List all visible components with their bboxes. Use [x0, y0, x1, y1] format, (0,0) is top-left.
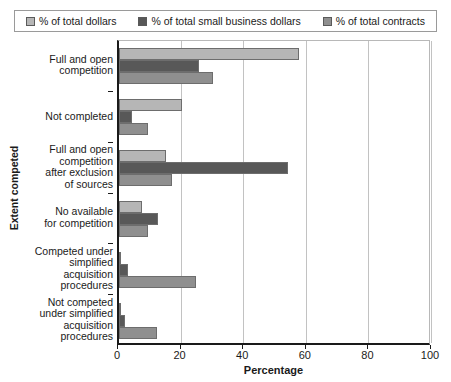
bar-series1-cat2[interactable]	[119, 162, 288, 174]
y-axis-label-2-line-3: of sources	[5, 179, 113, 191]
y-axis-label-2: Full and opencompetitionafter exclusiono…	[5, 144, 113, 190]
y-axis-tick-2	[108, 142, 113, 143]
y-axis-label-2-line-2: after exclusion	[5, 167, 113, 179]
bar-series1-cat3[interactable]	[119, 213, 158, 225]
bar-series2-cat2[interactable]	[119, 174, 172, 186]
bar-series2-cat1[interactable]	[119, 123, 148, 135]
legend-label-2: % of total contracts	[336, 16, 425, 27]
bar-group-3	[119, 201, 429, 237]
bar-series0-cat1[interactable]	[119, 99, 182, 111]
legend-label-0: % of total dollars	[39, 16, 117, 27]
x-tick-label-80: 80	[361, 349, 373, 361]
bar-series1-cat0[interactable]	[119, 60, 199, 72]
y-axis-label-1-line-0: Not completed	[5, 111, 113, 123]
y-axis-tick-3	[108, 193, 113, 194]
gridline-100	[431, 41, 432, 343]
bar-series1-cat4[interactable]	[119, 264, 128, 276]
x-axis-title: Percentage	[117, 364, 430, 376]
bar-series2-cat5[interactable]	[119, 327, 157, 339]
x-tick-label-0: 0	[114, 349, 120, 361]
bar-series2-cat0[interactable]	[119, 72, 213, 84]
bar-series0-cat5[interactable]	[119, 303, 121, 315]
bar-series0-cat4[interactable]	[119, 252, 121, 264]
legend-swatch-icon-0	[26, 17, 35, 26]
y-axis-label-3-line-1: for competition	[5, 218, 113, 230]
legend-swatch-icon-1	[138, 17, 147, 26]
y-axis-label-2-line-0: Full and open	[5, 144, 113, 156]
y-axis-tick-1	[108, 91, 113, 92]
y-axis-title: Extent competed	[8, 123, 20, 253]
y-axis-label-4: Competed undersimplifiedacquisitionproce…	[5, 246, 113, 292]
legend-entry-2[interactable]: % of total contracts	[323, 16, 425, 27]
legend-swatch-icon-2	[323, 17, 332, 26]
legend-entry-0[interactable]: % of total dollars	[26, 16, 117, 27]
y-axis-tick-5	[108, 294, 113, 295]
chart-legend: % of total dollars% of total small busin…	[14, 10, 437, 32]
x-tick-label-100: 100	[421, 349, 439, 361]
legend-label-1: % of total small business dollars	[151, 16, 300, 27]
bar-series0-cat0[interactable]	[119, 48, 299, 60]
bar-series2-cat4[interactable]	[119, 276, 196, 288]
gridline-20	[181, 41, 182, 343]
x-tick-label-60: 60	[299, 349, 311, 361]
y-axis-label-1: Not completed	[5, 111, 113, 123]
bar-group-5	[119, 303, 429, 339]
x-axis-ticks: 020406080100	[117, 345, 430, 361]
y-axis-label-5-line-3: procedures	[5, 331, 113, 343]
bar-series0-cat3[interactable]	[119, 201, 142, 213]
bar-series1-cat5[interactable]	[119, 315, 125, 327]
legend-entry-1[interactable]: % of total small business dollars	[138, 16, 300, 27]
bar-group-4	[119, 252, 429, 288]
bar-series2-cat3[interactable]	[119, 225, 148, 237]
y-axis-label-0-line-1: competition	[5, 65, 113, 77]
y-axis-label-5: Not competedunder simplifiedacquisitionp…	[5, 297, 113, 343]
y-axis-label-5-line-1: under simplified	[5, 308, 113, 320]
bar-series1-cat1[interactable]	[119, 111, 132, 123]
y-axis-label-4-line-3: procedures	[5, 280, 113, 292]
gridline-60	[306, 41, 307, 343]
gridline-80	[368, 41, 369, 343]
bar-group-1	[119, 99, 429, 135]
bar-group-0	[119, 48, 429, 84]
bar-series0-cat2[interactable]	[119, 150, 166, 162]
y-axis-label-3: No availablefor competition	[5, 206, 113, 229]
y-axis-label-0: Full and opencompetition	[5, 54, 113, 77]
gridline-40	[243, 41, 244, 343]
x-tick-label-20: 20	[173, 349, 185, 361]
y-axis-tick-4	[108, 243, 113, 244]
plot-area	[117, 40, 430, 345]
x-tick-label-40: 40	[236, 349, 248, 361]
bar-group-2	[119, 150, 429, 186]
